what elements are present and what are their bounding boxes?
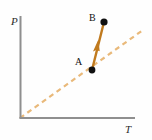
state-point-b-label: B xyxy=(89,13,96,23)
y-axis-label: P xyxy=(11,16,18,27)
state-point-a-label: A xyxy=(75,57,82,67)
dashed-reference-line xyxy=(20,30,143,118)
x-axis-label: T xyxy=(125,124,131,135)
pressure-temperature-diagram: P T A B xyxy=(0,0,152,140)
plot-canvas xyxy=(0,0,152,140)
state-point-b xyxy=(100,18,107,25)
state-point-a xyxy=(89,67,96,74)
